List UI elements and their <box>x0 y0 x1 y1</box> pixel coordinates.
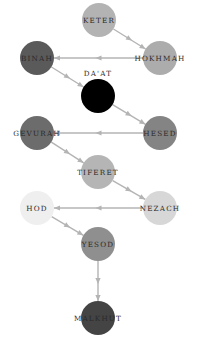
edge-keter-to-hokhmah <box>113 29 145 49</box>
node-keter: KETER <box>82 3 116 37</box>
edge-hokhmah-to-binah <box>54 55 143 60</box>
edge-hod-to-yesod <box>52 217 84 236</box>
edge-yesod-to-malkhut <box>95 261 100 301</box>
node-hesed: HESED <box>143 116 177 150</box>
node-nezach: NEZACH <box>140 191 181 225</box>
node-malkhut: MALKHUT <box>74 301 122 335</box>
node-gevurah: GEVURAH <box>13 116 61 150</box>
node-label: HOKHMAH <box>134 54 185 63</box>
mid-arrow-icon <box>95 278 100 284</box>
sefirot-graph: KETERHOKHMAHBINAHDA'ATHESEDGEVURAHTIFERE… <box>0 0 197 342</box>
node-label: NEZACH <box>140 204 181 213</box>
nodes-layer: KETERHOKHMAHBINAHDA'ATHESEDGEVURAHTIFERE… <box>13 3 185 335</box>
end-arrow-icon <box>54 55 60 60</box>
node-label: BINAH <box>21 54 53 63</box>
edge-gevurah-to-tiferet <box>51 142 83 163</box>
mid-arrow-icon <box>96 130 102 135</box>
end-arrow-icon <box>95 295 100 301</box>
edge-hesed-to-gevurah <box>54 130 143 135</box>
node-label: KETER <box>83 16 115 25</box>
mid-arrow-icon <box>96 55 102 60</box>
node-label: HESED <box>143 129 176 138</box>
node-label: HOD <box>26 204 48 213</box>
end-arrow-icon <box>54 205 60 210</box>
node-label: MALKHUT <box>74 314 122 323</box>
node-label: GEVURAH <box>13 129 61 138</box>
node-label: DA'AT <box>84 69 113 78</box>
node-hod: HOD <box>20 191 54 225</box>
node-binah: BINAH <box>20 41 54 75</box>
edge-tiferet-to-nezach <box>113 181 146 200</box>
node-label: YESOD <box>81 240 115 249</box>
node-tiferet: TIFERET <box>77 155 119 189</box>
edge-daat-to-hesed <box>113 105 146 125</box>
edge-nezach-to-hod <box>54 205 143 210</box>
edge-binah-to-daat <box>51 67 83 87</box>
node-yesod: YESOD <box>81 227 115 261</box>
mid-arrow-icon <box>96 205 102 210</box>
node-label: TIFERET <box>77 168 119 177</box>
node-circle <box>81 79 115 113</box>
node-daat: DA'AT <box>81 69 115 114</box>
